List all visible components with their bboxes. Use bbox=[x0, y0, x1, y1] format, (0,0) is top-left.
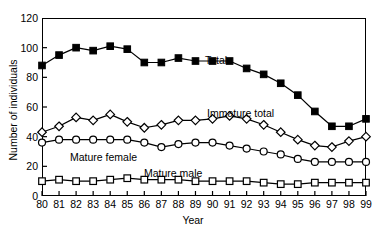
y-tick-label: 40 bbox=[26, 132, 38, 143]
y-axis-title: Number of individuals bbox=[7, 40, 19, 180]
x-axis-title: Year bbox=[0, 214, 386, 226]
x-tick-label: 99 bbox=[356, 199, 376, 210]
y-tick-label: 100 bbox=[20, 43, 38, 54]
x-axis-tick-labels: 8081828384858687888990919293949596979899 bbox=[0, 199, 386, 215]
series-annotation-mature-female: Mature female bbox=[70, 152, 137, 163]
y-tick-label: 120 bbox=[20, 13, 38, 24]
y-tick-label: 60 bbox=[26, 102, 38, 113]
series-annotation-total: Total bbox=[205, 55, 227, 66]
y-tick-label: 80 bbox=[26, 72, 38, 83]
series-annotation-immature-total: Immature total bbox=[207, 108, 274, 119]
series-annotation-mature-male: Mature male bbox=[144, 168, 202, 179]
y-tick-label: 20 bbox=[26, 161, 38, 172]
plot-area bbox=[42, 18, 366, 196]
chart-figure: 020406080100120 808182838485868788899091… bbox=[0, 0, 386, 236]
